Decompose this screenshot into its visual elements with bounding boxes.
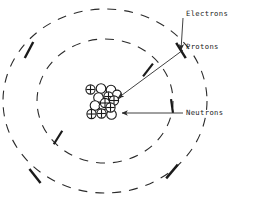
proton-particle: [87, 109, 96, 118]
neutron-particle: [96, 84, 106, 94]
atom-diagram-canvas: Electrons Protons Neutrons: [0, 0, 261, 203]
proton-particle: [97, 109, 106, 118]
neutrons-label: Neutrons: [186, 108, 223, 117]
proton-particle: [106, 103, 115, 112]
proton-particle: [86, 85, 95, 94]
atom-diagram: Electrons Protons Neutrons: [0, 0, 261, 203]
protons-label: Protons: [186, 42, 219, 51]
electrons-label: Electrons: [186, 9, 228, 18]
diagram-background: [0, 0, 261, 203]
